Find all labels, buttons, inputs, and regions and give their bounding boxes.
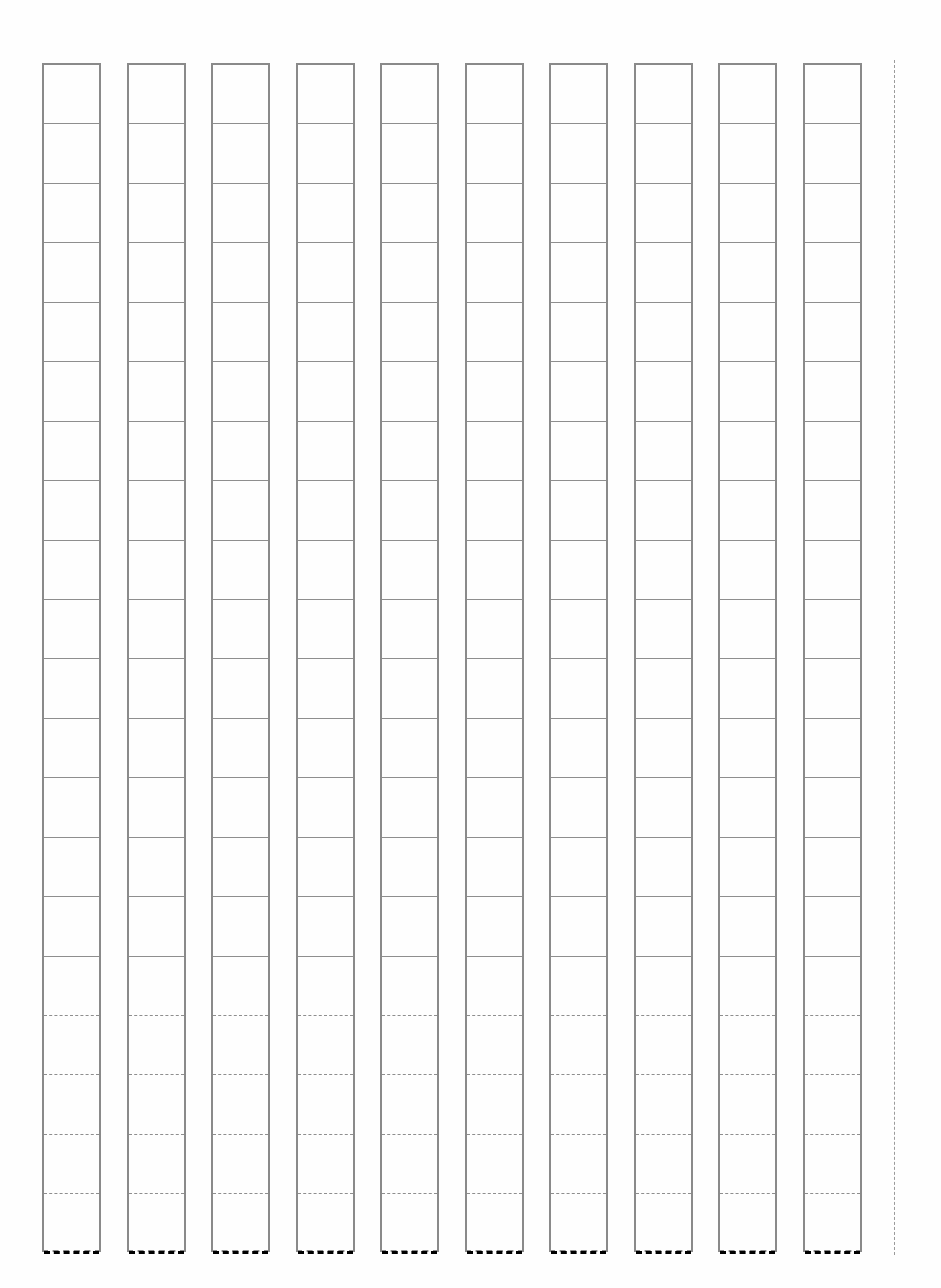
grid-cell [467,124,522,183]
grid-cell [298,362,353,421]
grid-cell [636,541,691,600]
grid-cell [44,243,99,302]
grid-cell [129,184,184,243]
grid-cell [382,124,437,183]
grid-cell [467,541,522,600]
grid-cell [805,541,860,600]
grid-cell [551,243,606,302]
grid-cell [636,659,691,718]
grid-cell [467,838,522,897]
grid-cell [129,600,184,659]
grid-cell [382,659,437,718]
grid-cell [44,897,99,956]
grid-cell [298,600,353,659]
grid-cell [382,600,437,659]
grid-cell [213,1075,268,1134]
grid-cell [551,303,606,362]
grid-cell [382,1016,437,1075]
grid-cell [44,1135,99,1194]
grid-cell [129,1135,184,1194]
grid-cell [213,719,268,778]
grid-cell [551,897,606,956]
grid-cell [467,1016,522,1075]
grid-cell [805,778,860,837]
grid-cell [382,1075,437,1134]
grid-cell [636,124,691,183]
grid-cell [720,362,775,421]
grid-cell [551,481,606,540]
grid-cell [213,1016,268,1075]
grid-cell [213,541,268,600]
grid-cell [298,1135,353,1194]
grid-cell [551,124,606,183]
grid-cell [720,719,775,778]
grid-cell [636,481,691,540]
grid-cell [44,957,99,1016]
grid-cell [44,124,99,183]
grid-sheet [0,0,941,1288]
grid-cell [129,124,184,183]
grid-cell [382,362,437,421]
grid-cell [805,659,860,718]
grid-cell [720,600,775,659]
grid-column-8 [634,63,693,1252]
grid-cell [551,1135,606,1194]
grid-cell [213,422,268,481]
grid-cell [298,243,353,302]
grid-cell [213,1135,268,1194]
grid-cell [213,124,268,183]
grid-cell [805,1016,860,1075]
grid-cell [551,184,606,243]
grid-cell [720,124,775,183]
grid-cell [636,1194,691,1253]
grid-cell [298,1016,353,1075]
grid-cell [551,1075,606,1134]
grid-cell [382,957,437,1016]
grid-cell [467,362,522,421]
grid-cell [382,481,437,540]
grid-cell [44,1194,99,1253]
grid-cell [551,659,606,718]
grid-cell [298,957,353,1016]
grid-cell [720,1135,775,1194]
grid-cell [551,1194,606,1253]
grid-cell [551,957,606,1016]
grid-cell [720,65,775,124]
grid-cell [636,303,691,362]
grid-cell [44,659,99,718]
grid-cell [129,422,184,481]
grid-column-6 [465,63,524,1252]
grid-cell [298,541,353,600]
grid-cell [720,957,775,1016]
grid-column-2 [127,63,186,1252]
grid-cell [44,541,99,600]
grid-cell [213,600,268,659]
grid-cell [129,778,184,837]
grid-cell [551,65,606,124]
grid-cell [44,719,99,778]
grid-cell [467,1075,522,1134]
grid-cell [551,600,606,659]
grid-column-9 [718,63,777,1252]
grid-cell [298,124,353,183]
grid-cell [805,243,860,302]
grid-cell [467,957,522,1016]
grid-cell [129,1075,184,1134]
grid-cell [467,1135,522,1194]
grid-cell [213,778,268,837]
grid-cell [213,659,268,718]
grid-cell [213,838,268,897]
grid-cell [129,957,184,1016]
grid-cell [213,184,268,243]
grid-cell [129,659,184,718]
grid-cell [44,778,99,837]
grid-cell [551,541,606,600]
grid-cell [720,481,775,540]
grid-cell [467,243,522,302]
grid-cell [298,303,353,362]
grid-cell [44,600,99,659]
grid-cell [382,184,437,243]
grid-cell [44,838,99,897]
grid-cell [382,1194,437,1253]
grid-cell [467,659,522,718]
